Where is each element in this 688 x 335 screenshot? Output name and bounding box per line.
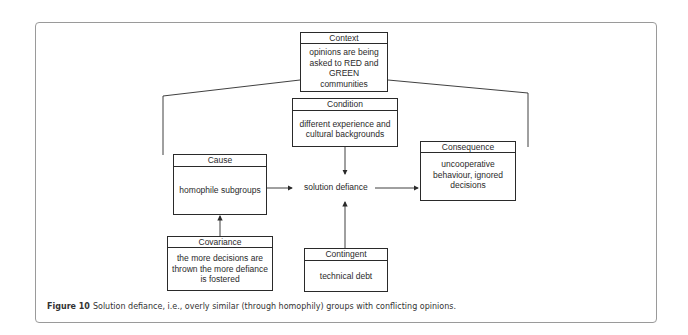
covariance-text: the more decisions are thrown the more d…	[168, 248, 272, 290]
caption-label: Figure 10	[47, 302, 90, 311]
context-bracket-right	[388, 80, 528, 147]
context-bracket-left	[163, 80, 300, 155]
phenomenon-label: solution defiance	[304, 182, 368, 192]
cause-title: Cause	[174, 155, 266, 167]
condition-text: different experience and cultural backgr…	[293, 111, 397, 147]
contingent-title: Contingent	[305, 249, 387, 261]
context-title: Context	[301, 33, 387, 44]
context-text: opinions are being asked to RED and GREE…	[301, 44, 387, 92]
covariance-title: Covariance	[168, 237, 272, 248]
consequence-text: uncooperative behaviour, ignored decisio…	[421, 153, 515, 197]
covariance-box: Covariance the more decisions are thrown…	[167, 236, 273, 291]
consequence-title: Consequence	[421, 142, 515, 153]
condition-box: Condition different experience and cultu…	[292, 98, 398, 147]
contingent-text: technical debt	[305, 261, 387, 291]
consequence-box: Consequence uncooperative behaviour, ign…	[420, 141, 516, 201]
cause-box: Cause homophile subgroups	[173, 154, 267, 215]
condition-title: Condition	[293, 99, 397, 111]
context-box: Context opinions are being asked to RED …	[300, 32, 388, 92]
contingent-box: Contingent technical debt	[304, 248, 388, 292]
caption-text: Solution defiance, i.e., overly similar …	[93, 302, 456, 311]
figure-caption: Figure 10Solution defiance, i.e., overly…	[47, 302, 456, 311]
cause-text: homophile subgroups	[174, 167, 266, 214]
